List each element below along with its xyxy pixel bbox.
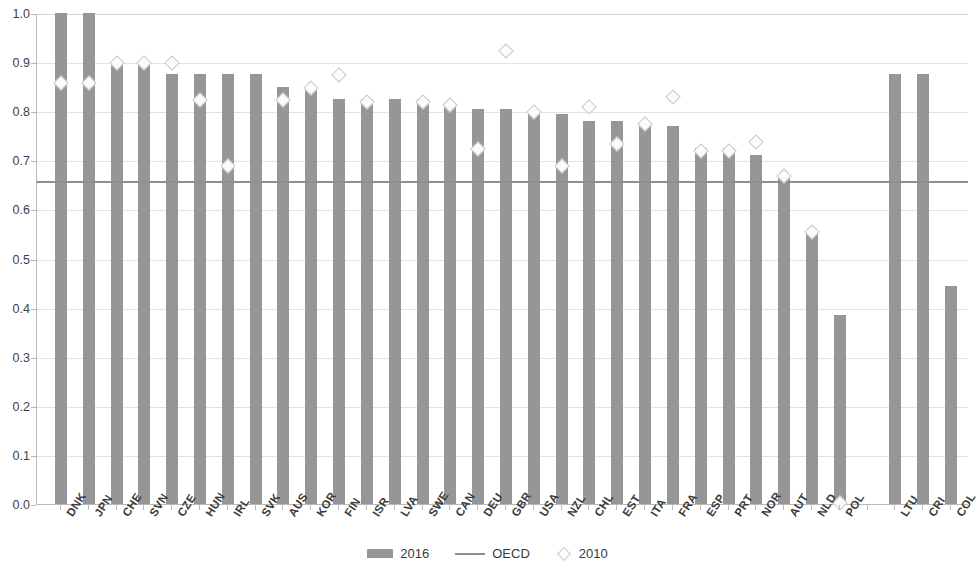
bar (111, 62, 123, 504)
plot-area (36, 14, 968, 505)
bar (389, 99, 401, 504)
x-axis-tick-mark (449, 505, 450, 510)
gridline (37, 14, 968, 15)
y-axis-tick-label: 0.5 (0, 253, 30, 267)
x-axis-tick-mark (477, 505, 478, 510)
bar (250, 74, 262, 504)
line-swatch-icon (455, 553, 485, 555)
y-axis-tick-label: 1.0 (0, 7, 30, 21)
data-marker (498, 43, 514, 59)
x-axis-tick-mark (171, 505, 172, 510)
data-marker (665, 90, 681, 106)
bar (528, 111, 540, 504)
bar (361, 99, 373, 504)
x-axis-tick-mark (199, 505, 200, 510)
data-marker (164, 55, 180, 71)
diamond-swatch-icon (557, 546, 571, 560)
bar (750, 155, 762, 504)
x-axis-tick-mark (672, 505, 673, 510)
bar-swatch-icon (367, 549, 393, 558)
x-axis-tick-mark (561, 505, 562, 510)
data-marker (331, 68, 347, 84)
bar (222, 74, 234, 504)
legend-item-2010: 2010 (556, 546, 608, 561)
x-axis-tick-mark (755, 505, 756, 510)
x-axis-tick-mark (282, 505, 283, 510)
y-axis-tick-label: 0.4 (0, 302, 30, 316)
bar (305, 87, 317, 504)
bar (138, 62, 150, 504)
x-axis-tick-mark (894, 505, 895, 510)
x-axis-tick-mark (728, 505, 729, 510)
x-axis-tick-mark (644, 505, 645, 510)
y-axis-tick-label: 0.6 (0, 203, 30, 217)
x-axis-tick-mark (811, 505, 812, 510)
bar (806, 232, 818, 505)
bar (333, 99, 345, 504)
legend-label-2010: 2010 (579, 546, 608, 561)
y-axis-tick-label: 0.7 (0, 154, 30, 168)
x-axis-tick-mark (588, 505, 589, 510)
bar (917, 74, 929, 504)
x-axis-tick-mark (700, 505, 701, 510)
bar (834, 315, 846, 504)
legend-label-2016: 2016 (400, 546, 429, 561)
legend-item-oecd: OECD (455, 546, 530, 561)
bar (889, 74, 901, 504)
x-axis-tick-mark (143, 505, 144, 510)
x-axis-tick-mark (227, 505, 228, 510)
legend-item-2016: 2016 (367, 546, 429, 561)
data-marker (749, 134, 765, 150)
bar (500, 109, 512, 504)
bar (194, 74, 206, 504)
y-axis-tick-label: 0.1 (0, 449, 30, 463)
bar (611, 121, 623, 504)
bar (723, 148, 735, 504)
oecd-reference-line (37, 181, 968, 183)
bar (583, 121, 595, 504)
x-axis-tick-mark (394, 505, 395, 510)
bar (277, 87, 289, 504)
x-axis-tick-mark (950, 505, 951, 510)
bar (778, 175, 790, 504)
chart-legend: 2016 OECD 2010 (0, 546, 975, 561)
x-axis-tick-mark (310, 505, 311, 510)
x-axis-tick-mark (616, 505, 617, 510)
x-axis-tick-mark (922, 505, 923, 510)
x-axis-tick-mark (783, 505, 784, 510)
x-axis-tick-mark (533, 505, 534, 510)
x-axis-tick-mark (116, 505, 117, 510)
x-axis-tick-mark (338, 505, 339, 510)
x-axis-tick-mark (505, 505, 506, 510)
x-axis-tick-mark (60, 505, 61, 510)
x-axis-tick-mark (366, 505, 367, 510)
bar (417, 99, 429, 504)
x-axis-tick-mark (839, 505, 840, 510)
x-axis-tick-mark (255, 505, 256, 510)
x-axis-tick-mark (867, 505, 868, 510)
bar (695, 148, 707, 504)
y-axis-tick-label: 0.0 (0, 498, 30, 512)
y-axis-tick-label: 0.9 (0, 56, 30, 70)
bar (945, 286, 957, 504)
legend-label-oecd: OECD (492, 546, 530, 561)
y-axis-tick-label: 0.8 (0, 105, 30, 119)
bar (472, 109, 484, 504)
x-axis-tick-mark (422, 505, 423, 510)
bar (166, 74, 178, 504)
y-axis-tick-label: 0.3 (0, 351, 30, 365)
y-axis-tick-label: 0.2 (0, 400, 30, 414)
bar (444, 104, 456, 504)
x-axis-tick-mark (88, 505, 89, 510)
y-axis-tick-mark (31, 505, 36, 506)
